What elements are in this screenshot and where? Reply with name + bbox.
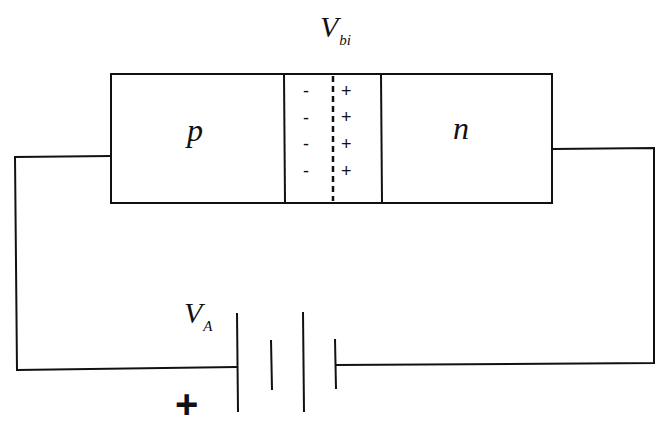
negative-charge: - <box>303 135 309 153</box>
negative-charge: - <box>303 109 309 127</box>
positive-charge: + <box>341 162 352 180</box>
battery-positive-sign: + <box>175 384 198 424</box>
negative-charge: - <box>303 162 309 180</box>
circuit-diagram <box>0 0 658 428</box>
battery-plate-short-1 <box>271 340 272 390</box>
positive-charge: + <box>341 82 352 100</box>
negative-charge: - <box>303 82 309 100</box>
battery-plate-long-2 <box>303 312 304 412</box>
builtin-voltage-sub: bi <box>339 32 351 48</box>
builtin-voltage-label: Vbi <box>320 10 350 44</box>
p-region-label: p <box>187 112 203 149</box>
positive-charge: + <box>341 135 352 153</box>
builtin-voltage-main: V <box>320 10 338 43</box>
diode-body <box>111 74 552 203</box>
depletion-left-edge <box>284 74 285 203</box>
left-wire <box>15 156 237 370</box>
battery-plate-short-2 <box>335 339 336 389</box>
applied-voltage-label: VA <box>184 296 212 330</box>
applied-voltage-sub: A <box>203 318 212 334</box>
depletion-right-edge <box>381 74 382 203</box>
battery-plate-long-1 <box>237 313 238 412</box>
applied-voltage-main: V <box>184 296 202 329</box>
n-region-label: n <box>453 110 469 147</box>
right-wire <box>336 148 654 365</box>
positive-charge: + <box>341 108 352 126</box>
